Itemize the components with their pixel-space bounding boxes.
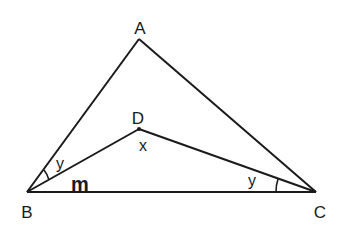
label-c: C	[314, 203, 326, 222]
angle-arc-c	[276, 179, 278, 192]
segment-ac	[139, 39, 316, 192]
angle-label-x: x	[139, 137, 147, 154]
triangle-diagram: A B C D x y y m	[0, 0, 343, 233]
label-b: B	[21, 203, 32, 222]
segment-ab	[27, 39, 139, 192]
angle-label-y-b: y	[56, 155, 64, 172]
label-d: D	[132, 109, 144, 128]
label-a: A	[134, 19, 146, 38]
segment-dc	[139, 129, 316, 192]
angle-arc-b	[44, 170, 49, 180]
angle-label-y-c: y	[248, 172, 256, 189]
side-label-m: m	[71, 173, 89, 195]
